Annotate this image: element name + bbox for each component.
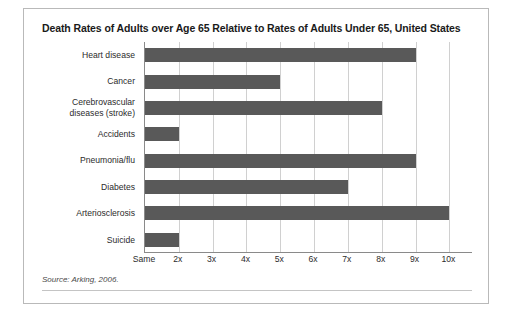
tick-label: 10x	[441, 254, 455, 264]
tick-label: 9x	[410, 254, 419, 264]
tick-label: Same	[133, 254, 155, 264]
tick-label: 4x	[241, 254, 250, 264]
gridline	[382, 42, 383, 252]
gridline	[213, 42, 214, 252]
bar	[145, 48, 416, 62]
gridline	[314, 42, 315, 252]
bar	[145, 206, 449, 220]
category-label: Heart disease	[38, 50, 135, 61]
category-label: Pneumonia/flu	[38, 155, 135, 166]
chart-title: Death Rates of Adults over Age 65 Relati…	[42, 22, 472, 35]
source-note: Source: Arking, 2006.	[42, 275, 119, 284]
bar	[145, 75, 280, 89]
gridline	[280, 42, 281, 252]
plot-wrapper: Heart diseaseCancerCerebrovascular disea…	[42, 42, 472, 264]
tick-label: 6x	[309, 254, 318, 264]
gridline	[348, 42, 349, 252]
tick-label: 3x	[207, 254, 216, 264]
bar	[145, 233, 179, 247]
bar	[145, 127, 179, 141]
bar	[145, 154, 416, 168]
gridline	[416, 42, 417, 252]
gridline	[449, 42, 450, 252]
gridline	[246, 42, 247, 252]
plot-area	[144, 42, 472, 253]
category-label: Cancer	[38, 76, 135, 87]
category-label: Arteriosclerosis	[38, 208, 135, 219]
category-label: Cerebrovascular diseases (stroke)	[38, 97, 135, 118]
gridline	[179, 42, 180, 252]
bar	[145, 101, 382, 115]
value-axis-ticks: Same2x3x4x5x6x7x8x9x10x	[144, 254, 472, 268]
category-label: Accidents	[38, 129, 135, 140]
category-axis-labels: Heart diseaseCancerCerebrovascular disea…	[42, 42, 139, 253]
tick-label: 2x	[173, 254, 182, 264]
tick-label: 5x	[275, 254, 284, 264]
category-label: Diabetes	[38, 182, 135, 193]
chart-figure: Death Rates of Adults over Age 65 Relati…	[23, 8, 489, 304]
source-divider	[42, 290, 472, 291]
tick-label: 7x	[342, 254, 351, 264]
bar	[145, 180, 348, 194]
tick-label: 8x	[376, 254, 385, 264]
category-label: Suicide	[38, 235, 135, 246]
